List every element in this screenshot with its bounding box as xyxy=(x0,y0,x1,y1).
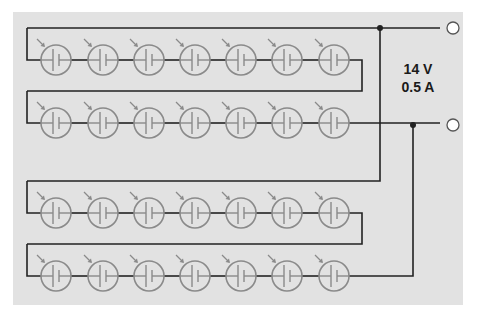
negative-terminal-icon xyxy=(447,119,459,131)
solar-cell-icon xyxy=(84,192,118,228)
solar-cell-icon xyxy=(222,39,256,75)
cell-string-2 xyxy=(37,102,349,138)
solar-cell-icon xyxy=(84,255,118,291)
solar-cell-icon xyxy=(222,102,256,138)
junction-dot xyxy=(377,25,383,31)
solar-cell-icon xyxy=(176,255,210,291)
junction-dot xyxy=(410,122,416,128)
solar-cell-icon xyxy=(268,39,302,75)
solar-cell-icon xyxy=(222,255,256,291)
solar-cell-icon xyxy=(37,192,71,228)
solar-cell-icon xyxy=(268,255,302,291)
solar-cell-icon xyxy=(315,255,349,291)
solar-cell-icon xyxy=(176,192,210,228)
positive-terminal-icon xyxy=(447,22,459,34)
solar-cell-icon xyxy=(315,39,349,75)
solar-cell-icon xyxy=(176,39,210,75)
solar-cell-icon xyxy=(222,192,256,228)
voltage-label: 14 V xyxy=(378,61,458,77)
solar-cell-icon xyxy=(130,102,164,138)
solar-cell-icon xyxy=(37,102,71,138)
wiring-diagram xyxy=(0,0,482,318)
solar-cell-icon xyxy=(84,39,118,75)
solar-cell-icon xyxy=(37,255,71,291)
cell-string-3 xyxy=(37,192,349,228)
solar-cell-icon xyxy=(176,102,210,138)
solar-cell-icon xyxy=(315,102,349,138)
solar-cell-icon xyxy=(84,102,118,138)
solar-cell-icon xyxy=(130,255,164,291)
current-label: 0.5 A xyxy=(378,79,458,95)
cell-string-4 xyxy=(37,255,349,291)
solar-cell-icon xyxy=(268,192,302,228)
solar-cell-icon xyxy=(268,102,302,138)
solar-cell-icon xyxy=(130,192,164,228)
solar-cell-icon xyxy=(130,39,164,75)
solar-cell-icon xyxy=(37,39,71,75)
solar-cell-icon xyxy=(315,192,349,228)
cell-string-1 xyxy=(37,39,349,75)
